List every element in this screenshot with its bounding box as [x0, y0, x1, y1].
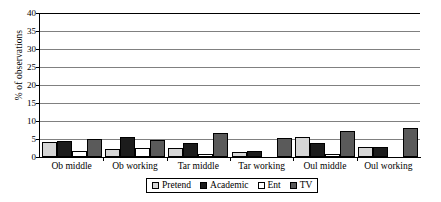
bar-academic — [310, 143, 325, 157]
bar-group-bars — [230, 13, 293, 157]
legend-item[interactable]: TV — [290, 180, 313, 190]
y-tick-label: 0 — [10, 153, 36, 162]
y-tick-label: 25 — [10, 63, 36, 72]
y-tick-mark — [36, 13, 39, 14]
x-tick-label: Tar working — [230, 161, 293, 171]
x-tick-label: Ob middle — [40, 161, 103, 171]
bar-groups — [40, 13, 420, 157]
bar-tv — [340, 131, 355, 157]
bar-academic — [183, 143, 198, 157]
legend-item[interactable]: Ent — [258, 180, 281, 190]
bar-academic — [120, 137, 135, 157]
bar-tv — [87, 139, 102, 157]
bar-pretend — [358, 147, 373, 157]
bar-group-bars — [103, 13, 166, 157]
y-tick-label: 40 — [10, 9, 36, 18]
legend-swatch-icon — [258, 182, 265, 189]
y-tick-mark — [36, 49, 39, 50]
legend-label: TV — [300, 180, 313, 190]
legend-label: Academic — [210, 180, 249, 190]
bar-group — [357, 13, 420, 157]
y-tick-mark — [36, 103, 39, 104]
y-tick-mark — [36, 31, 39, 32]
y-tick-mark — [36, 67, 39, 68]
y-tick-mark — [36, 121, 39, 122]
bar-pretend — [232, 152, 247, 157]
y-tick-label: 5 — [10, 135, 36, 144]
bar-academic — [57, 141, 72, 157]
legend-label: Pretend — [162, 180, 191, 190]
y-tick-label: 35 — [10, 27, 36, 36]
x-tick-label: Tar middle — [167, 161, 230, 171]
legend-swatch-icon — [152, 182, 159, 189]
bar-pretend — [295, 137, 310, 157]
bar-group — [40, 13, 103, 157]
bar-group — [167, 13, 230, 157]
bar-ent — [72, 151, 87, 157]
y-tick-label: 10 — [10, 117, 36, 126]
x-tick-label: Oul middle — [293, 161, 356, 171]
bar-group-bars — [40, 13, 103, 157]
bar-chart: % of observations 4035302520151050 Ob mi… — [0, 0, 441, 202]
bar-group-bars — [293, 13, 356, 157]
y-tick-label: 15 — [10, 99, 36, 108]
bar-ent — [325, 154, 340, 157]
bar-group-bars — [167, 13, 230, 157]
x-tick-label: Ob working — [103, 161, 166, 171]
legend-swatch-icon — [290, 182, 297, 189]
y-axis-ticks: 4035302520151050 — [8, 13, 36, 157]
legend-item[interactable]: Academic — [200, 180, 249, 190]
bar-tv — [213, 133, 228, 157]
chart-legend: PretendAcademicEntTV — [146, 178, 318, 193]
legend-swatch-icon — [200, 182, 207, 189]
legend-label: Ent — [268, 180, 281, 190]
y-tick-mark — [36, 157, 39, 158]
x-axis-labels: Ob middleOb workingTar middleTar working… — [40, 161, 420, 171]
x-tick-label: Oul working — [357, 161, 420, 171]
bar-tv — [277, 138, 292, 157]
y-tick-label: 30 — [10, 45, 36, 54]
bar-pretend — [105, 149, 120, 157]
bar-group-bars — [357, 13, 420, 157]
bar-pretend — [42, 142, 57, 157]
legend-item[interactable]: Pretend — [152, 180, 191, 190]
bar-ent — [135, 148, 150, 157]
bar-academic — [247, 151, 262, 157]
bar-group — [293, 13, 356, 157]
bar-tv — [403, 128, 418, 157]
bar-group — [103, 13, 166, 157]
bar-academic — [373, 147, 388, 157]
y-tick-label: 20 — [10, 81, 36, 90]
bar-tv — [150, 140, 165, 157]
y-tick-mark — [36, 139, 39, 140]
bar-ent — [198, 154, 213, 157]
bar-group — [230, 13, 293, 157]
bar-pretend — [168, 148, 183, 157]
y-tick-mark — [36, 85, 39, 86]
